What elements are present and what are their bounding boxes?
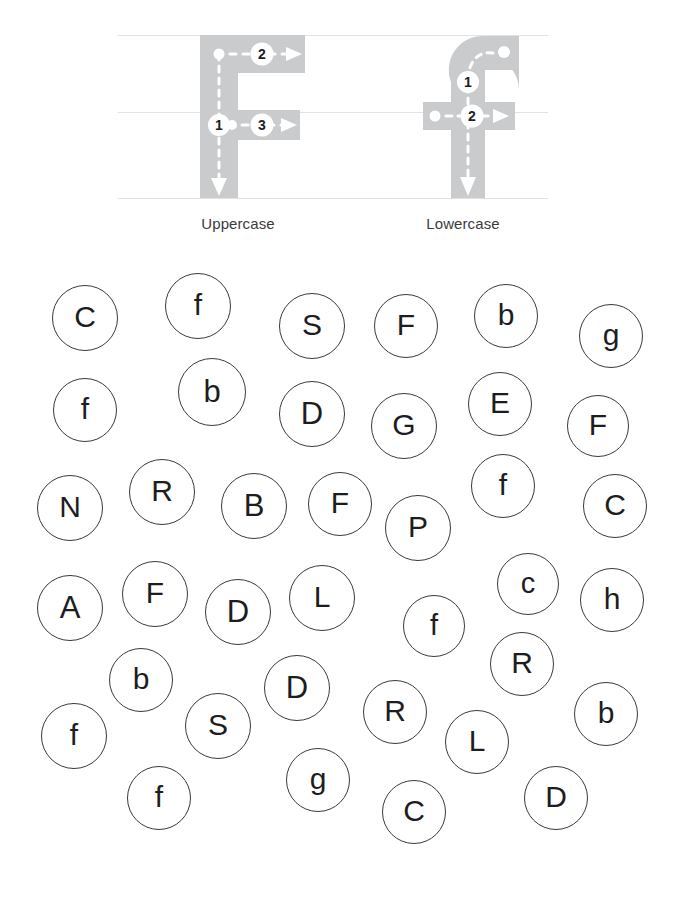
letter-circle[interactable]: E: [468, 372, 532, 436]
uppercase-f-svg: 1 2 3: [150, 20, 350, 220]
letter-circle-field: CfSFbgfbDGEFNRBFPfCAFDLfchbDRbfSRLfgCD: [0, 248, 689, 915]
letter-circle[interactable]: F: [308, 472, 372, 536]
svg-text:3: 3: [258, 117, 266, 133]
letter-circle[interactable]: f: [127, 766, 191, 830]
letter-circle-label: f: [194, 290, 202, 320]
letter-circle[interactable]: f: [53, 378, 117, 442]
uppercase-caption: Uppercase: [168, 215, 308, 232]
letter-circle[interactable]: D: [524, 766, 588, 830]
letter-circle[interactable]: A: [37, 575, 103, 641]
letter-circle-label: F: [331, 488, 349, 518]
lowercase-f-step-badge-2: 2: [461, 105, 484, 128]
uppercase-f-step-badge-1: 1: [208, 114, 230, 136]
letter-circle-label: f: [155, 782, 163, 812]
letter-circle[interactable]: S: [185, 693, 251, 759]
letter-circle[interactable]: c: [497, 553, 559, 615]
letter-circle-label: h: [604, 584, 621, 614]
letter-circle-label: f: [499, 470, 507, 500]
worksheet-page: 1 2 3: [0, 0, 689, 915]
letter-circle[interactable]: F: [567, 395, 629, 457]
letter-circle-label: S: [302, 310, 322, 340]
letter-circle-label: E: [490, 388, 510, 418]
letter-circle[interactable]: R: [129, 459, 195, 525]
letter-circle[interactable]: C: [382, 780, 446, 844]
letter-circle[interactable]: f: [403, 595, 465, 657]
uppercase-f-stroke-diagram: 1 2 3: [150, 20, 350, 220]
letter-circle-label: b: [498, 300, 515, 330]
stroke-order-panel: 1 2 3: [0, 0, 689, 248]
lowercase-f-svg: 1 2: [405, 20, 565, 220]
letter-circle-label: g: [603, 320, 620, 350]
letter-circle[interactable]: b: [109, 648, 173, 712]
letter-circle[interactable]: g: [579, 304, 643, 368]
letter-circle-label: B: [244, 490, 265, 521]
lowercase-caption: Lowercase: [393, 215, 533, 232]
svg-text:2: 2: [258, 46, 266, 62]
letter-circle-label: b: [598, 698, 615, 728]
letter-circle[interactable]: b: [178, 358, 246, 426]
letter-circle-label: D: [545, 782, 567, 812]
letter-circle[interactable]: B: [221, 473, 287, 539]
letter-circle-label: S: [208, 710, 228, 740]
svg-text:1: 1: [464, 74, 472, 90]
letter-circle-label: R: [384, 696, 406, 726]
letter-circle[interactable]: R: [363, 680, 427, 744]
letter-circle-label: g: [310, 764, 327, 794]
letter-circle-label: c: [521, 569, 536, 598]
letter-circle-label: P: [408, 512, 428, 542]
letter-circle-label: C: [604, 490, 626, 520]
letter-circle-label: F: [146, 578, 164, 608]
letter-circle-label: D: [301, 398, 323, 429]
letter-circle[interactable]: S: [279, 293, 345, 359]
letter-circle[interactable]: R: [490, 632, 554, 696]
letter-circle[interactable]: b: [474, 284, 538, 348]
letter-circle[interactable]: C: [583, 474, 647, 538]
letter-circle-label: R: [511, 648, 533, 678]
letter-circle-label: L: [314, 582, 331, 612]
letter-circle-label: f: [70, 720, 78, 750]
letter-circle-label: C: [74, 302, 96, 332]
letter-circle-label: G: [392, 410, 415, 440]
letter-circle[interactable]: f: [165, 273, 231, 339]
uppercase-f-step-badge-3: 3: [251, 114, 274, 137]
lowercase-f-step-badge-1: 1: [457, 71, 479, 93]
letter-circle[interactable]: F: [122, 561, 188, 627]
letter-circle[interactable]: f: [41, 703, 107, 769]
letter-circle[interactable]: f: [471, 454, 535, 518]
letter-circle-label: L: [469, 726, 486, 756]
letter-circle-label: f: [81, 394, 89, 424]
letter-circle-label: f: [430, 611, 438, 640]
letter-circle[interactable]: N: [37, 475, 103, 541]
letter-circle[interactable]: D: [279, 381, 345, 447]
uppercase-f-step-badge-2: 2: [251, 43, 274, 66]
letter-circle-label: D: [286, 672, 308, 703]
letter-circle[interactable]: F: [374, 294, 438, 358]
letter-circle-label: b: [203, 376, 220, 407]
letter-circle[interactable]: b: [574, 682, 638, 746]
letter-circle-label: C: [403, 796, 425, 826]
letter-circle[interactable]: L: [445, 710, 509, 774]
letter-circle-label: A: [60, 592, 81, 623]
letter-circle[interactable]: L: [289, 565, 355, 631]
letter-circle[interactable]: h: [580, 568, 644, 632]
letter-circle-label: D: [227, 596, 249, 627]
letter-circle[interactable]: D: [264, 655, 330, 721]
letter-circle[interactable]: g: [286, 748, 350, 812]
letter-circle-label: F: [589, 410, 607, 440]
svg-text:2: 2: [468, 108, 476, 124]
lowercase-f-stroke-diagram: 1 2: [405, 20, 565, 220]
letter-circle-label: b: [133, 664, 150, 694]
letter-circle-label: R: [151, 476, 173, 506]
letter-circle[interactable]: C: [52, 285, 118, 351]
letter-circle[interactable]: D: [205, 579, 271, 645]
letter-circle[interactable]: G: [371, 393, 437, 459]
letter-circle-label: F: [397, 310, 415, 340]
letter-circle-label: N: [59, 492, 81, 522]
svg-text:1: 1: [215, 117, 223, 133]
letter-circle[interactable]: P: [385, 495, 451, 561]
